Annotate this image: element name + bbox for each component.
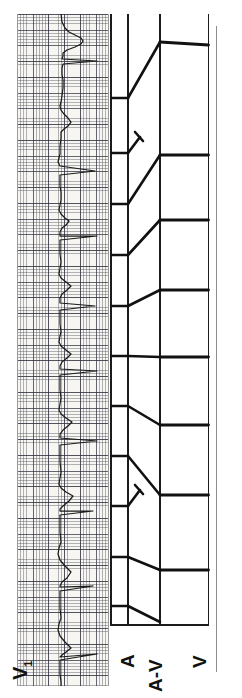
- av-blocked-beat: [128, 137, 140, 153]
- ladder-tier-labels: A A-V V: [104, 630, 216, 696]
- figure-canvas: V1: [0, 0, 242, 698]
- av-conduction-line: [128, 155, 160, 204]
- page-margin-rule: [216, 26, 217, 672]
- tier-label-a: A: [118, 668, 132, 687]
- atrial-marks: [111, 98, 128, 606]
- ecg-waveform-trace: [17, 14, 109, 686]
- av-conduction-line: [128, 557, 160, 570]
- av-conduction-line: [128, 356, 160, 357]
- lead-label-text: V: [9, 667, 31, 680]
- ecg-strip: [17, 14, 109, 686]
- lead-label-subscript: 1: [22, 661, 34, 667]
- av-conduction-line: [128, 42, 160, 98]
- ventricular-mark: [160, 42, 209, 45]
- av-conduction-lines: [128, 42, 160, 622]
- lead-label: V1: [2, 648, 42, 688]
- av-conduction-line: [128, 220, 160, 255]
- ecg-paper-right-edge: [108, 14, 109, 686]
- av-conduction-line: [128, 406, 160, 425]
- ladder-diagram: [110, 14, 210, 626]
- av-conduction-line: [128, 606, 160, 622]
- av-blocked-beat: [128, 490, 140, 506]
- tier-label-v: V: [190, 668, 203, 687]
- ecg-paper-left-edge: [17, 14, 18, 686]
- av-conduction-line: [128, 456, 160, 495]
- ventricular-marks: [160, 42, 209, 570]
- av-conduction-line: [128, 290, 160, 306]
- tier-label-av: A-V: [146, 692, 179, 698]
